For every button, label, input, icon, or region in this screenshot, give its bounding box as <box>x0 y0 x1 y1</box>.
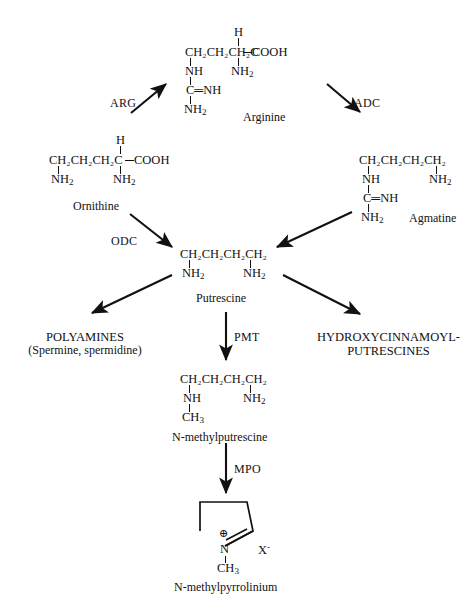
agmatine-side-nh: NH <box>362 173 380 186</box>
enzyme-label-arg: ARG <box>110 96 136 111</box>
agmatine-backbone-chain: CH₂CH₂CH₂CH₂ <box>359 154 446 167</box>
agmatine-name-label: Agmatine <box>409 211 456 226</box>
nmethylputrescine-left-nh: NH <box>183 392 201 405</box>
ornithine-alpha-amino: NH2 <box>113 173 136 187</box>
agmatine-side-imine: C═NH <box>363 192 398 205</box>
nmethylpyrrolinium-methyl: CH3 <box>217 562 239 576</box>
nmethylputrescine-backbone-chain: CH₂CH₂CH₂CH₂ <box>180 373 267 386</box>
enzyme-label-pmt: PMT <box>234 330 260 345</box>
nmethylputrescine-name-label: N-methylputrescine <box>172 430 267 445</box>
arrow-ornithine-to-arginine <box>131 84 166 113</box>
arginine-carboxyl-group: COOH <box>252 46 287 59</box>
agmatine-side-amino: NH2 <box>361 211 384 225</box>
product-polyamines: POLYAMINES (Spermine, spermidine) <box>0 330 170 358</box>
putrescine-left-amino: NH2 <box>182 267 205 281</box>
product-hydroxycinnamoyl-line2: PUTRESCINES <box>305 344 472 358</box>
arrow-agmatine-to-putrescine <box>277 212 352 247</box>
arginine-top-hydrogen: H <box>234 26 243 39</box>
ornithine-top-hydrogen: H <box>116 134 125 147</box>
enzyme-label-odc: ODC <box>111 234 137 249</box>
arginine-alpha-amino: NH2 <box>231 65 254 79</box>
product-polyamines-line1: POLYAMINES <box>0 330 170 344</box>
putrescine-name-label: Putrescine <box>196 291 246 306</box>
arginine-name-label: Arginine <box>243 110 285 125</box>
ornithine-backbone-chain: CH₂CH₂CH₂C <box>49 154 123 167</box>
nmethylputrescine-right-amino: NH2 <box>243 392 266 406</box>
arginine-c-cooh-bond <box>243 52 252 53</box>
enzyme-label-adc: ADC <box>354 96 380 111</box>
nmethylpyrrolinium-positive-charge: ⊕ <box>219 528 228 539</box>
arginine-side-amino: NH2 <box>184 103 207 117</box>
arginine-side-imine: C═NH <box>186 84 221 97</box>
ornithine-name-label: Ornithine <box>73 199 119 214</box>
putrescine-right-amino: NH2 <box>243 267 266 281</box>
product-polyamines-line2: (Spermine, spermidine) <box>0 344 170 358</box>
product-hydroxycinnamoyl-putrescines: HYDROXYCINNAMOYL- PUTRESCINES <box>305 330 472 359</box>
nmethylpyrrolinium-counterion: X- <box>258 543 270 557</box>
ornithine-c-cooh-bond <box>125 160 134 161</box>
product-hydroxycinnamoyl-line1: HYDROXYCINNAMOYL- <box>305 330 472 344</box>
arginine-side-nh: NH <box>185 65 203 78</box>
nmethylpyrrolinium-name-label: N-methylpyrrolinium <box>174 580 277 595</box>
arrow-putrescine-to-hydroxycinnamoyl <box>283 275 360 314</box>
agmatine-terminal-amino: NH2 <box>429 173 452 187</box>
putrescine-backbone-chain: CH₂CH₂CH₂CH₂ <box>180 248 267 261</box>
ornithine-carboxyl-group: COOH <box>134 154 169 167</box>
nmethylputrescine-methyl: CH3 <box>182 411 204 425</box>
arrow-putrescine-to-polyamines <box>92 275 172 313</box>
nmethylpyrrolinium-nitrogen: N <box>220 543 229 556</box>
enzyme-label-mpo: MPO <box>234 462 261 477</box>
pathway-diagram-canvas: H CH₂CH₂CH₂C COOH NH2 NH C═NH NH2 Argini… <box>0 0 472 600</box>
ornithine-terminal-amino: NH2 <box>51 173 74 187</box>
